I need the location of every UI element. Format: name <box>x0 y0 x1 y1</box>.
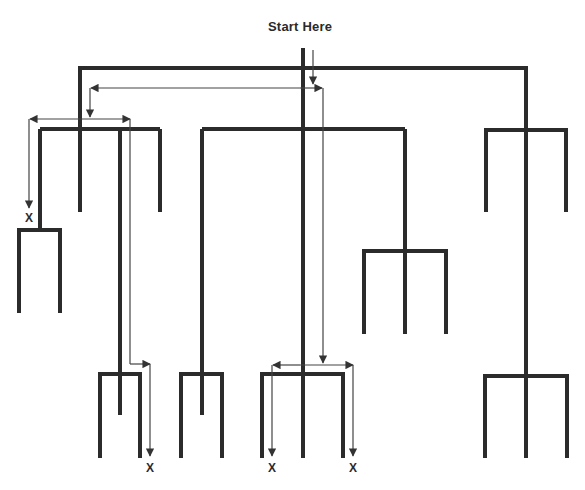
dead-end-x-marker: X <box>25 211 33 225</box>
dead-end-markers: X X X X <box>25 211 357 475</box>
far-left-fork <box>19 230 60 313</box>
tree-structure <box>19 48 567 458</box>
dead-end-x-marker: X <box>146 461 154 475</box>
tree-maze-diagram: X X X X <box>0 0 585 490</box>
dead-end-x-marker: X <box>268 461 276 475</box>
dead-end-x-marker: X <box>349 461 357 475</box>
